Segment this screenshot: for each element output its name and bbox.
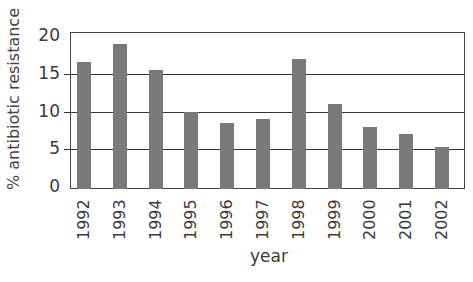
y-axis-label: % antibiotic resistance [5,8,23,190]
x-tick-label: 2001 [398,199,414,240]
x-tick-label: 1998 [291,199,307,240]
x-tick-label: 2002 [434,199,450,240]
x-tick-label: 1992 [76,199,92,240]
bar-1994 [149,70,163,189]
y-tick-label: 5 [20,140,60,157]
x-tick-label: 1996 [219,199,235,240]
y-tick-label: 20 [20,27,60,44]
bar-1992 [77,62,91,189]
x-tick-label: 1999 [327,199,343,240]
bar-2001 [399,134,413,189]
bar-1996 [220,123,234,189]
x-tick-label: 1997 [255,199,271,240]
bar-1998 [292,59,306,189]
y-tick-label: 10 [20,103,60,120]
bar-chart: 05101520 1992199319941995199619971998199… [0,0,473,282]
x-tick-label: 1993 [112,199,128,240]
x-tick-label: 1995 [183,199,199,240]
bar-1995 [184,112,198,190]
y-tick-label: 0 [20,178,60,195]
x-axis-label: year [250,246,288,266]
x-tick-label: 1994 [148,199,164,240]
bar-1997 [256,119,270,189]
bar-2000 [363,127,377,189]
x-tick-label: 2000 [362,199,378,240]
y-tick-label: 15 [20,65,60,82]
bar-2002 [435,147,449,189]
bar-1999 [328,104,342,189]
bar-1993 [113,44,127,189]
